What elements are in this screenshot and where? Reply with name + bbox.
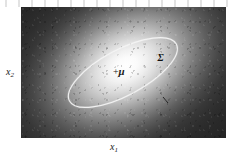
- mu-symbol: μ: [119, 65, 125, 77]
- sigma-leader-line: [163, 97, 168, 103]
- scan-artifact-band: [0, 0, 231, 7]
- x-axis-label-subscript: 1: [114, 146, 118, 154]
- y-axis-label: x2: [6, 67, 14, 79]
- plot-panel: +μ Σ: [21, 7, 226, 138]
- x-axis-label: x1: [110, 142, 118, 154]
- mean-marker: +μ: [113, 66, 125, 77]
- covariance-label: Σ: [158, 53, 164, 63]
- figure-gaussian-density: +μ Σ x2 x1: [0, 0, 231, 157]
- y-axis-label-subscript: 2: [10, 71, 14, 79]
